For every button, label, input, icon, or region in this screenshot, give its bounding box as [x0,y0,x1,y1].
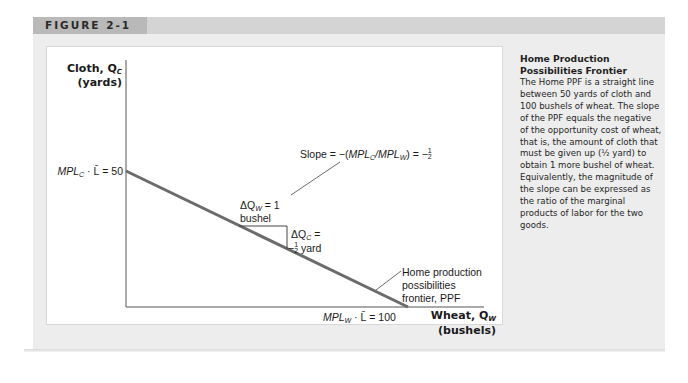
x-axis-units: (bushels) [422,324,496,338]
figure-caption: Home Production Possibilities Frontier T… [520,53,662,232]
y-intercept-label: MPLC · L̄ = 50 [30,165,123,181]
caption-body: The Home PPF is a straight line between … [520,77,662,232]
ppf-leader-line [376,271,401,290]
y-axis-units: (yards) [62,76,122,90]
figure-bottom-rule [24,349,665,352]
x-intercept-label: MPLW · L̄ = 100 [323,311,396,327]
delta-qc-value: −12 yard [288,242,321,254]
ppf-label-line1: Home production [402,266,482,278]
slope-leader-line [291,162,340,195]
ppf-label-line2: possibilities [402,279,456,291]
caption-title-line1: Home Production [520,53,662,65]
ppf-label-line3: frontier, PPF [402,292,460,304]
delta-qw-unit: bushel [240,212,271,224]
ppf-line [126,171,408,307]
slope-label: Slope = −(MPLC/MPLW) = −12 [300,148,432,164]
caption-title-line2: Possibilities Frontier [520,65,662,77]
